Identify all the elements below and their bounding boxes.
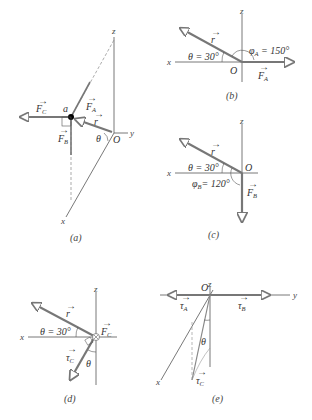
label-phi: φB= 120°: [192, 178, 230, 190]
svg-text:→: →: [239, 291, 249, 302]
z-axis-label: z: [239, 6, 244, 16]
angle-arc: [104, 133, 108, 141]
panel-d: z x r → θ = 30° FC → τC → θ (d): [19, 284, 117, 405]
svg-text:→: →: [67, 343, 77, 354]
caption-b: (b): [226, 90, 238, 102]
svg-text:→: →: [259, 61, 269, 72]
panel-b: z x r → θ = 30° φA = 150° O FA → (b): [166, 6, 294, 102]
svg-text:→: →: [87, 92, 97, 103]
label-origin: O: [113, 134, 120, 145]
caption-a: (a): [70, 232, 82, 244]
panel-e: z y x O τA → τB → θ τC → (e): [155, 279, 297, 405]
label-theta: θ: [201, 336, 206, 347]
z-axis-label: z: [93, 284, 98, 294]
label-origin: O: [201, 282, 208, 293]
svg-text:→: →: [59, 124, 69, 135]
label-a: a: [63, 103, 68, 114]
torque-figure: z y x FC → a FA → r → FB → θ O (a) z x: [0, 0, 312, 420]
svg-text:→: →: [211, 26, 221, 37]
svg-text:→: →: [181, 291, 191, 302]
x-axis-label: x: [166, 168, 171, 178]
x-axis: [66, 133, 114, 217]
label-theta: θ = 30°: [188, 51, 219, 62]
svg-text:→: →: [197, 366, 207, 377]
label-theta-2: θ: [86, 358, 91, 369]
x-axis-label: x: [166, 57, 171, 67]
y-axis-label: y: [129, 128, 134, 138]
label-phi: φA = 150°: [249, 45, 289, 57]
label-origin: O: [230, 65, 237, 76]
label-theta: θ: [96, 133, 101, 144]
svg-text:→: →: [211, 138, 221, 149]
z-axis-label: z: [111, 26, 116, 36]
x-axis-label: x: [19, 332, 24, 342]
caption-d: (d): [64, 393, 76, 405]
panel-c: z x r → θ = 30° φB= 120° O FB → (c): [166, 116, 258, 241]
y-axis-label: y: [292, 290, 297, 300]
caption-c: (c): [208, 229, 220, 241]
svg-text:→: →: [38, 95, 48, 106]
z-axis-label: z: [239, 116, 244, 126]
svg-text:→: →: [66, 300, 76, 311]
x-axis-label: x: [60, 216, 65, 226]
svg-text:→: →: [94, 108, 104, 119]
label-theta: θ = 30°: [188, 162, 219, 173]
svg-text:→: →: [102, 317, 112, 328]
svg-text:→: →: [248, 178, 258, 189]
label-origin: O: [245, 162, 252, 173]
panel-a: z y x FC → a FA → r → FB → θ O (a): [20, 26, 134, 244]
label-theta: θ = 30°: [40, 326, 71, 337]
caption-e: (e): [212, 393, 224, 405]
x-axis-label: x: [155, 377, 160, 387]
